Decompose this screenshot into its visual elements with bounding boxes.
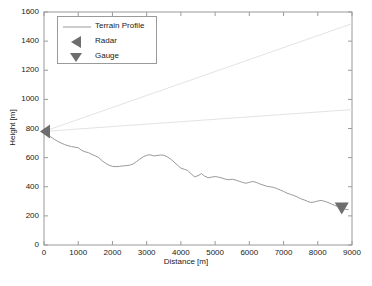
y-tick-label: 200 <box>0 212 39 220</box>
station-markers-group <box>40 124 349 214</box>
legend-label-terrain-profile: Terrain Profile <box>95 22 144 30</box>
y-tick-label: 800 <box>0 125 39 133</box>
figure-caption <box>0 276 372 286</box>
terrain-profile-line-icon <box>62 19 92 35</box>
x-axis-label: Distance [m] <box>0 257 372 266</box>
y-tick-label: 1200 <box>0 66 39 74</box>
y-tick-label: 400 <box>0 183 39 191</box>
legend-entry-gauge: Gauge <box>58 49 158 65</box>
y-axis-label: Height [m] <box>8 98 17 158</box>
y-tick-label: 600 <box>0 154 39 162</box>
series-line <box>44 110 352 132</box>
y-tick-label: 1000 <box>0 95 39 103</box>
legend-label-radar: Radar <box>95 37 117 45</box>
radar-marker <box>40 124 50 138</box>
y-tick-label: 0 <box>0 241 39 249</box>
x-tick-label: 9000 <box>332 249 372 257</box>
series-line <box>44 131 349 209</box>
terrain-profile-figure: 02004006008001000120014001600 0100020003… <box>0 0 372 286</box>
legend-entry-terrain-profile: Terrain Profile <box>58 19 158 35</box>
legend-entry-radar: Radar <box>58 34 158 50</box>
gauge-marker-icon <box>62 49 92 65</box>
radar-marker-icon <box>62 34 92 50</box>
plot-canvas <box>0 0 372 286</box>
gauge-marker <box>335 203 349 215</box>
legend: Terrain Profile Radar Gauge <box>57 16 157 64</box>
y-tick-label: 1400 <box>0 37 39 45</box>
legend-label-gauge: Gauge <box>95 52 119 60</box>
y-tick-label: 1600 <box>0 8 39 16</box>
